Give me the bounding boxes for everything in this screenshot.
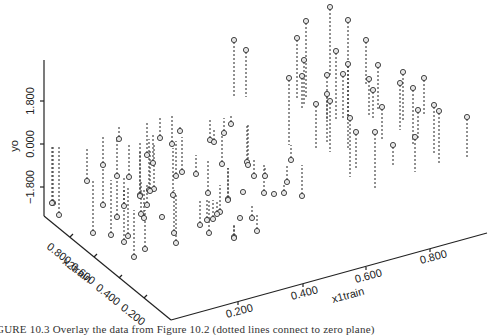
data-point-marker xyxy=(372,129,377,134)
x1-axis-line xyxy=(171,233,487,320)
data-point-marker xyxy=(173,240,178,245)
data-point-marker xyxy=(237,215,242,220)
data-point-marker xyxy=(210,216,215,221)
data-point-marker xyxy=(431,102,436,107)
data-point-marker xyxy=(353,129,358,134)
data-point-marker xyxy=(327,98,332,103)
data-point-marker xyxy=(225,197,230,202)
x1-tick-labels: 0.200 0.400 0.600 0.800 x1train xyxy=(224,247,448,320)
data-point-marker xyxy=(231,235,236,240)
data-point-marker xyxy=(412,134,417,139)
data-point-marker xyxy=(464,114,469,119)
data-point-marker xyxy=(245,162,250,167)
data-point-marker xyxy=(206,230,211,235)
data-point-marker xyxy=(49,200,54,205)
data-point-marker xyxy=(116,136,121,141)
data-point-marker xyxy=(144,202,149,207)
data-point-marker xyxy=(347,115,352,120)
data-point-marker xyxy=(211,139,216,144)
data-point-marker xyxy=(204,217,209,222)
data-point-marker xyxy=(169,141,174,146)
data-point-marker xyxy=(375,62,380,67)
data-point-marker xyxy=(262,173,267,178)
data-point-marker xyxy=(303,18,308,23)
data-point-marker xyxy=(271,191,276,196)
data-point-marker xyxy=(56,212,61,217)
data-point-marker xyxy=(345,17,350,22)
data-point-marker xyxy=(281,190,286,195)
data-point-marker xyxy=(90,230,95,235)
data-point-marker xyxy=(327,4,332,9)
x2-tick-labels: 0.800 0.600 0.400 0.200 x2train xyxy=(45,240,148,327)
data-point-marker xyxy=(125,233,130,238)
data-point-marker xyxy=(193,171,198,176)
x2-tick xyxy=(94,254,97,257)
data-point-marker xyxy=(121,203,126,208)
x2-tick-label: 0.400 xyxy=(94,281,123,307)
data-point-marker xyxy=(170,192,175,197)
data-point-marker xyxy=(366,76,371,81)
data-point-marker xyxy=(126,174,131,179)
data-point-marker xyxy=(249,215,254,220)
data-point-marker xyxy=(288,157,293,162)
data-point-marker xyxy=(400,69,405,74)
data-point-marker xyxy=(142,246,147,251)
data-point-marker xyxy=(436,108,441,113)
data-point-marker xyxy=(301,57,306,62)
data-points xyxy=(49,4,469,259)
x1-axis-title: x1train xyxy=(330,285,365,305)
data-point-marker xyxy=(254,228,259,233)
data-point-marker xyxy=(345,61,350,66)
data-point-marker xyxy=(114,214,119,219)
data-point-marker xyxy=(390,142,395,147)
data-point-marker xyxy=(324,91,329,96)
data-point-marker xyxy=(299,193,304,198)
data-point-marker xyxy=(294,35,299,40)
data-point-marker xyxy=(286,75,291,80)
data-point-marker xyxy=(313,101,318,106)
data-point-marker xyxy=(84,178,89,183)
figure-caption: GURE 10.3 Overlay the data from Figure 1… xyxy=(0,323,375,335)
x2-axis-line xyxy=(44,216,171,320)
x2-tick xyxy=(70,234,73,237)
z-tick-labels: 1.800 0.000 −1.800 yo xyxy=(8,87,36,204)
z-tick-label: 0.000 xyxy=(24,130,36,158)
data-point-marker xyxy=(173,173,178,178)
z-tick-label: 1.800 xyxy=(24,87,36,115)
z-axis-title: yo xyxy=(8,140,20,152)
data-point-marker xyxy=(228,121,233,126)
data-point-marker xyxy=(299,73,304,78)
data-point-marker xyxy=(410,85,415,90)
data-point-marker xyxy=(150,160,155,165)
data-point-marker xyxy=(147,188,152,193)
data-point-marker xyxy=(137,193,142,198)
data-point-marker xyxy=(243,47,248,52)
data-point-marker xyxy=(333,48,338,53)
data-point-marker xyxy=(100,162,105,167)
data-point-marker xyxy=(177,128,182,133)
data-point-marker xyxy=(397,80,402,85)
data-point-marker xyxy=(240,189,245,194)
data-point-marker xyxy=(415,107,420,112)
data-point-marker xyxy=(219,161,224,166)
x2-tick xyxy=(119,275,122,278)
data-point-marker xyxy=(284,179,289,184)
data-point-marker xyxy=(421,75,426,80)
data-point-marker xyxy=(114,173,119,178)
data-point-marker xyxy=(251,173,256,178)
data-point-marker xyxy=(159,214,164,219)
data-point-marker xyxy=(214,211,219,216)
data-point-marker xyxy=(324,72,329,77)
data-point-marker xyxy=(108,232,113,237)
data-point-marker xyxy=(379,104,384,109)
data-point-marker xyxy=(144,152,149,157)
x2-tick xyxy=(144,295,147,298)
x1-tick-label: 0.800 xyxy=(418,247,448,266)
z-tick-label: −1.800 xyxy=(24,170,36,204)
data-point-marker xyxy=(370,87,375,92)
data-point-marker xyxy=(100,202,105,207)
data-point-marker xyxy=(221,130,226,135)
data-point-marker xyxy=(231,37,236,42)
data-point-marker xyxy=(205,190,210,195)
data-point-marker xyxy=(131,254,136,259)
